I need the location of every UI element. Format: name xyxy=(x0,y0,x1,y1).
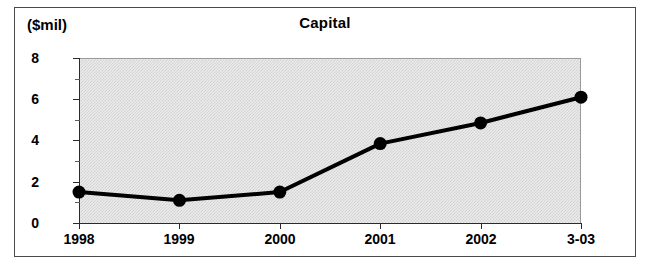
x-axis-line xyxy=(79,223,582,224)
x-tick-2001 xyxy=(380,224,381,229)
x-tick-label-2001: 2001 xyxy=(340,232,420,246)
chart-figure: ($mil) Capital 8 6 4 2 0 1998 1999 2000 … xyxy=(14,7,636,257)
y-tick-4 xyxy=(73,140,80,141)
y-tick-2 xyxy=(73,182,80,183)
y-tick-minor-7 xyxy=(75,79,80,80)
y-tick-minor-5 xyxy=(75,120,80,121)
x-tick-label-2002: 2002 xyxy=(441,232,521,246)
y-axis-line xyxy=(79,58,80,224)
plot-area xyxy=(79,58,581,223)
chart-title: Capital xyxy=(15,14,635,31)
y-tick-8 xyxy=(73,58,80,59)
x-tick-1998 xyxy=(79,224,80,229)
plot-right-border xyxy=(580,58,581,223)
plot-top-border xyxy=(79,58,581,59)
y-tick-label-8: 8 xyxy=(15,51,39,65)
x-tick-label-1999: 1999 xyxy=(139,232,219,246)
y-tick-label-2: 2 xyxy=(15,175,39,189)
x-tick-label-3-03: 3-03 xyxy=(541,232,621,246)
x-tick-2002 xyxy=(481,224,482,229)
x-tick-3-03 xyxy=(581,224,582,229)
x-tick-1999 xyxy=(179,224,180,229)
y-tick-minor-1 xyxy=(75,202,80,203)
x-tick-label-2000: 2000 xyxy=(240,232,320,246)
x-tick-2000 xyxy=(280,224,281,229)
y-tick-label-4: 4 xyxy=(15,133,39,147)
y-tick-label-6: 6 xyxy=(15,92,39,106)
y-tick-label-0: 0 xyxy=(15,216,39,230)
x-tick-label-1998: 1998 xyxy=(39,232,119,246)
y-tick-minor-3 xyxy=(75,161,80,162)
y-tick-6 xyxy=(73,99,80,100)
